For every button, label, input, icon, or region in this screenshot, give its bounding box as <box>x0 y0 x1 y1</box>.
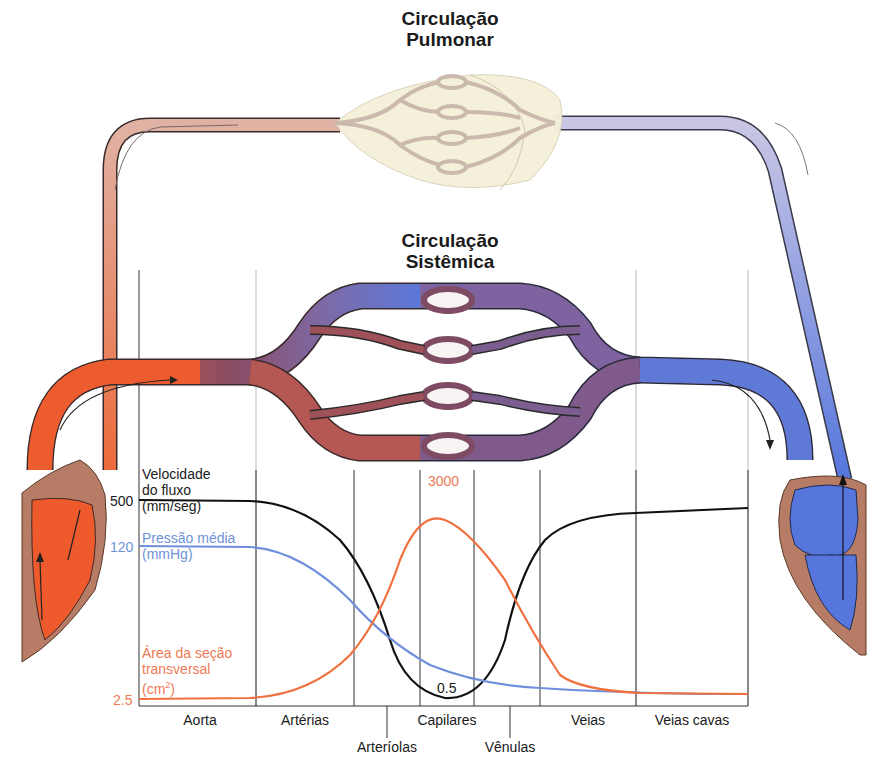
systemic-title-line1: Circulação <box>380 230 520 251</box>
velocity-min-label: 0.5 <box>437 680 456 696</box>
category-veias: Veias <box>540 712 636 728</box>
pressure-series-label: Pressão média (mmHg) <box>142 530 235 562</box>
pulmonary-title-line2: Pulmonar <box>380 29 520 50</box>
category-arterias: Artérias <box>256 712 354 728</box>
lung-illustration <box>335 75 562 190</box>
category-veias-cavas: Veias cavas <box>636 712 748 728</box>
pulmonary-title: Circulação Pulmonar <box>380 8 520 50</box>
category-venulas: Vênulas <box>460 739 560 755</box>
circulation-diagram: Circulação Pulmonar Circulação Sistêmica… <box>0 0 883 770</box>
category-arteriolas: Arteríolas <box>337 739 437 755</box>
systemic-title-line2: Sistêmica <box>380 251 520 272</box>
category-capilares: Capilares <box>397 712 497 728</box>
category-aorta: Aorta <box>150 712 250 728</box>
left-heart-illustration <box>22 460 106 662</box>
area-series-label: Área da seção transversal (cm2) <box>142 645 232 697</box>
pressure-max-label: 120 <box>110 539 133 555</box>
right-heart-illustration <box>779 474 866 655</box>
systemic-title: Circulação Sistêmica <box>380 230 520 272</box>
area-peak-label: 3000 <box>428 473 459 489</box>
area-min-label: 2.5 <box>113 692 132 708</box>
velocity-series-label: Velocidade do fluxo (mm/seg) <box>142 466 211 514</box>
pulmonary-title-line1: Circulação <box>380 8 520 29</box>
velocity-max-label: 500 <box>110 493 133 509</box>
systemic-vessels <box>40 289 800 470</box>
